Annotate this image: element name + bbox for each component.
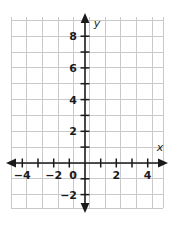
x-tick-label-4: 4 [144, 169, 152, 182]
x-tick-label-2: 2 [112, 169, 120, 182]
y-axis-label: y [93, 17, 101, 30]
y-tick-label-6: 6 [69, 62, 77, 75]
y-tick-label-2: 2 [69, 125, 77, 138]
coordinate-grid-figure: −4 −2 2 4 8 6 4 2 −2 0 x y [0, 0, 173, 227]
x-tick-label--2: −2 [45, 169, 62, 182]
x-tick-label--4: −4 [14, 169, 31, 182]
y-tick-label--2: −2 [60, 189, 77, 202]
coordinate-plane: −4 −2 2 4 8 6 4 2 −2 0 x y [0, 0, 173, 227]
y-tick-label-8: 8 [69, 30, 77, 43]
x-axis-label: x [156, 141, 164, 154]
origin-label: 0 [69, 169, 77, 182]
figure-background [0, 0, 173, 227]
y-tick-label-4: 4 [69, 94, 77, 107]
